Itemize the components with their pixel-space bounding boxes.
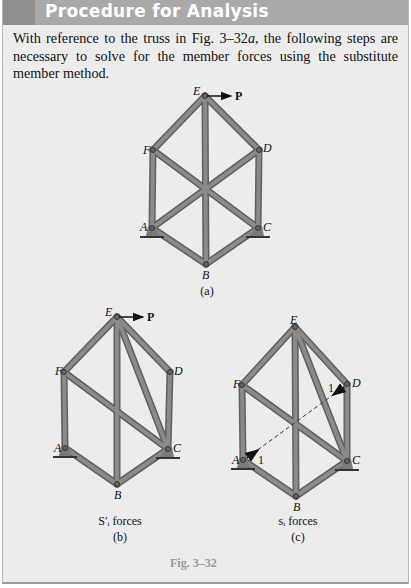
node-label-a: A bbox=[140, 220, 147, 235]
node-label-a: A bbox=[54, 441, 61, 456]
unit-load-label: 1 bbox=[328, 381, 334, 396]
node-label-f: F bbox=[55, 364, 62, 379]
node-label-e: E bbox=[290, 313, 297, 328]
node-label-f: F bbox=[233, 377, 240, 392]
caption-a: (a) bbox=[195, 284, 219, 299]
load-label-p: P bbox=[235, 89, 242, 104]
figure-number: Fig. 3–32 bbox=[170, 556, 217, 571]
node-label-e: E bbox=[105, 305, 112, 320]
unit-load-arrow-icon bbox=[247, 450, 258, 458]
truss-a bbox=[140, 94, 270, 267]
load-label-p: P bbox=[147, 310, 154, 325]
node-label-a: A bbox=[232, 453, 239, 468]
unit-load-label: 1 bbox=[258, 453, 264, 468]
node-label-f: F bbox=[143, 143, 150, 158]
node-label-d: D bbox=[352, 376, 361, 391]
truss-b bbox=[53, 315, 180, 487]
node-label-d: D bbox=[174, 364, 183, 379]
unit-load-arrow-icon bbox=[333, 387, 344, 395]
node-label-e: E bbox=[193, 84, 200, 99]
node-label-b: B bbox=[202, 268, 209, 283]
subtitle-b: S′ᵢ forces bbox=[80, 514, 160, 529]
caption-b: (b) bbox=[105, 530, 135, 545]
caption-c: (c) bbox=[283, 530, 313, 545]
truss-c bbox=[231, 325, 359, 499]
node-label-c: C bbox=[352, 453, 360, 468]
node-label-c: C bbox=[173, 441, 181, 456]
node-label-c: C bbox=[263, 220, 271, 235]
node-label-b: B bbox=[114, 488, 121, 503]
node-label-b: B bbox=[293, 500, 300, 515]
node-label-d: D bbox=[263, 141, 272, 156]
subtitle-c: sᵢ forces bbox=[258, 514, 338, 529]
